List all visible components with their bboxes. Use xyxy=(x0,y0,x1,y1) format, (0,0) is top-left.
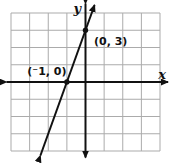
point-dot xyxy=(83,28,88,33)
y-axis-label: y xyxy=(72,1,82,16)
point-label-0-3: (0, 3) xyxy=(94,35,127,48)
x-axis-label: x xyxy=(157,67,166,82)
coordinate-plane-figure: y x (0, 3) (⁻1, 0) xyxy=(0,0,174,163)
point-label-neg1-0: (⁻1, 0) xyxy=(27,65,66,78)
graph-svg: y x (0, 3) (⁻1, 0) xyxy=(0,0,174,163)
point-dot xyxy=(64,79,69,84)
